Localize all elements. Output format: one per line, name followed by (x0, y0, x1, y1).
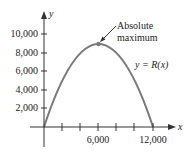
y-tick-label-4000: 4,000 (16, 84, 39, 95)
chart-canvas: 10,000 8,000 6,000 4,000 2,000 6,000 12,… (0, 0, 189, 155)
y-tick-label-6000: 6,000 (16, 65, 39, 76)
x-axis-arrow-icon (168, 124, 176, 130)
y-tick-label-8000: 8,000 (16, 47, 39, 58)
x-axis-label: x (177, 121, 183, 132)
y-axis-arrow-icon (41, 11, 47, 19)
y-tick-label-2000: 2,000 (16, 102, 39, 113)
annotation-line-2: maximum (117, 32, 158, 43)
x-tick-label-6000: 6,000 (87, 134, 110, 145)
maximum-point (96, 42, 100, 46)
y-tick-label-10000: 10,000 (11, 28, 39, 39)
revenue-curve (44, 44, 153, 127)
y-axis-label: y (48, 8, 54, 19)
annotation-line-1: Absolute (117, 20, 154, 31)
curve-label: y = R(x) (134, 59, 169, 71)
x-tick-label-12000: 12,000 (139, 134, 167, 145)
